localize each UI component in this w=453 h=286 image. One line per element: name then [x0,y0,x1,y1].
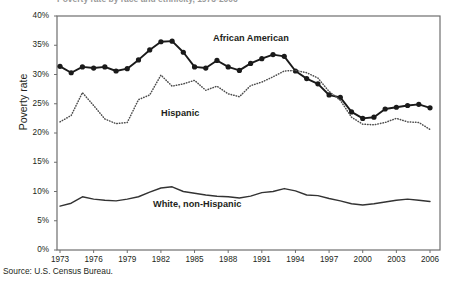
data-point-marker [192,64,197,69]
y-axis-tick-label: 10% [15,187,49,196]
series-label-hispanic: Hispanic [161,108,199,118]
data-point-marker [416,102,421,107]
data-point-marker [170,39,175,44]
data-point-marker [226,64,231,69]
data-point-marker [147,47,152,52]
data-point-marker [136,57,141,62]
series-line-african-american [60,41,430,118]
data-point-marker [270,52,275,57]
data-point-marker [57,64,62,69]
series-line-hispanic [60,70,430,129]
data-point-marker [91,65,96,70]
y-axis-tick-label: 5% [15,216,49,225]
data-point-marker [113,68,118,73]
data-point-marker [203,65,208,70]
data-point-marker [181,50,186,55]
data-point-marker [315,81,320,86]
y-axis-tick-label: 20% [15,128,49,137]
y-axis-tick-label: 25% [15,99,49,108]
data-point-marker [405,103,410,108]
data-point-marker [214,58,219,63]
data-point-marker [360,116,365,121]
data-point-marker [80,64,85,69]
data-point-marker [371,115,376,120]
source-note: Source: U.S. Census Bureau. [3,266,113,276]
poverty-rate-chart-figure: Poverty rate by race and ethnicity, 1973… [0,0,453,286]
data-point-marker [349,109,354,114]
data-point-marker [237,68,242,73]
series-label-white-non-hispanic: White, non-Hispanic [153,199,241,209]
data-point-marker [69,70,74,75]
y-axis-tick-label: 35% [15,40,49,49]
data-point-marker [248,61,253,66]
data-point-marker [427,105,432,110]
data-point-marker [326,92,331,97]
data-point-marker [125,66,130,71]
x-axis-tick-label: 2006 [410,255,450,264]
data-point-marker [394,105,399,110]
plot-frame [57,16,440,250]
y-axis-tick-label: 15% [15,157,49,166]
series-line-white-non-hispanic [60,187,430,206]
data-point-marker [259,56,264,61]
y-axis-tick-label: 40% [15,11,49,20]
data-point-marker [282,54,287,59]
data-point-marker [383,106,388,111]
data-point-marker [304,76,309,81]
series-label-african-american: African American [213,33,289,43]
y-axis-tick-label: 30% [15,70,49,79]
data-point-marker [102,64,107,69]
data-point-marker [158,39,163,44]
y-axis-tick-label: 0% [15,245,49,254]
